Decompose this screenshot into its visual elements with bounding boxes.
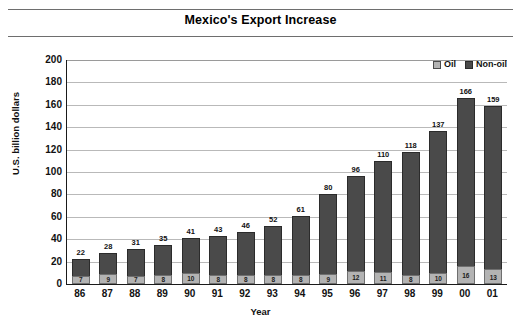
y-tick-label: 40	[34, 234, 62, 244]
bar-group[interactable]: 16616	[457, 60, 475, 284]
bar-group[interactable]: 9612	[347, 60, 365, 284]
x-tick-label: 90	[175, 288, 205, 299]
bar-segment-nonoil[interactable]	[347, 176, 365, 284]
bar-oil-label: 8	[292, 276, 310, 283]
bar-oil-label: 9	[319, 276, 337, 283]
x-tick-label: 89	[147, 288, 177, 299]
y-tick-label: 180	[34, 77, 62, 87]
bar-oil-label: 9	[99, 276, 117, 283]
bar-group[interactable]: 438	[209, 60, 227, 284]
bar-group[interactable]: 317	[127, 60, 145, 284]
y-tick-label: 100	[34, 167, 62, 177]
x-tick-label: 01	[477, 288, 507, 299]
x-tick-label: 92	[230, 288, 260, 299]
legend-label: Oil	[444, 60, 456, 69]
legend-item-oil[interactable]: Oil	[433, 60, 456, 69]
bar-total-label: 96	[340, 166, 372, 174]
bar-total-label: 118	[395, 142, 427, 150]
bar-oil-label: 8	[154, 276, 172, 283]
bar-segment-nonoil[interactable]	[484, 106, 502, 284]
plot-area: 2272893173584110438468528618809961211011…	[66, 60, 507, 285]
x-tick-label: 91	[202, 288, 232, 299]
x-tick-label: 96	[340, 288, 370, 299]
bar-total-label: 80	[312, 184, 344, 192]
bar-total-label: 166	[450, 88, 482, 96]
bar-segment-nonoil[interactable]	[292, 216, 310, 284]
bar-total-label: 61	[285, 206, 317, 214]
bar-oil-label: 10	[429, 275, 447, 282]
bar-group[interactable]: 528	[264, 60, 282, 284]
bar-total-label: 137	[422, 121, 454, 129]
bar-segment-nonoil[interactable]	[402, 152, 420, 284]
x-tick-label: 94	[285, 288, 315, 299]
chart-legend: OilNon-oil	[433, 60, 507, 69]
bar-oil-label: 16	[457, 272, 475, 279]
bar-segment-nonoil[interactable]	[319, 194, 337, 284]
bar-group[interactable]: 227	[72, 60, 90, 284]
bar-segment-nonoil[interactable]	[457, 98, 475, 284]
bar-oil-label: 8	[264, 276, 282, 283]
bar-oil-label: 13	[484, 274, 502, 281]
bar-group[interactable]: 289	[99, 60, 117, 284]
bar-group[interactable]: 358	[154, 60, 172, 284]
bar-oil-label: 11	[374, 275, 392, 282]
title-rule-top	[8, 9, 513, 10]
legend-swatch-icon	[433, 61, 441, 69]
x-tick-label: 93	[257, 288, 287, 299]
x-tick-label: 97	[367, 288, 397, 299]
bar-group[interactable]: 1188	[402, 60, 420, 284]
x-tick-label: 95	[312, 288, 342, 299]
title-rule-bottom	[8, 36, 513, 37]
x-tick-label: 87	[92, 288, 122, 299]
chart-page: Mexico's Export Increase U.S. billion do…	[0, 0, 521, 325]
bar-oil-label: 8	[209, 276, 227, 283]
x-tick-label: 99	[422, 288, 452, 299]
y-tick-label: 60	[34, 212, 62, 222]
x-axis-title: Year	[0, 306, 521, 317]
bar-group[interactable]: 809	[319, 60, 337, 284]
legend-label: Non-oil	[476, 60, 507, 69]
bar-group[interactable]: 468	[237, 60, 255, 284]
bar-oil-label: 12	[347, 274, 365, 281]
legend-swatch-icon	[465, 61, 473, 69]
x-tick-label: 88	[120, 288, 150, 299]
x-tick-label: 98	[395, 288, 425, 299]
y-tick-label: 20	[34, 257, 62, 267]
y-tick-label: 0	[34, 279, 62, 289]
y-tick-label: 80	[34, 189, 62, 199]
bar-segment-nonoil[interactable]	[374, 161, 392, 284]
y-axis-tick-labels: 200180160140120100806040200	[30, 60, 62, 284]
bar-oil-label: 7	[127, 276, 145, 283]
y-tick-label: 140	[34, 122, 62, 132]
x-tick-label: 00	[450, 288, 480, 299]
page-title: Mexico's Export Increase	[0, 13, 521, 27]
legend-item-nonoil[interactable]: Non-oil	[465, 60, 507, 69]
bar-total-label: 52	[257, 216, 289, 224]
bar-total-label: 159	[477, 96, 509, 104]
bar-oil-label: 8	[237, 276, 255, 283]
bar-oil-label: 7	[72, 276, 90, 283]
bar-oil-label: 10	[182, 275, 200, 282]
bar-total-label: 110	[367, 151, 399, 159]
y-tick-label: 160	[34, 100, 62, 110]
y-tick-label: 120	[34, 145, 62, 155]
bar-segment-nonoil[interactable]	[429, 131, 447, 284]
y-axis-title: U.S. billion dollars	[10, 49, 21, 219]
bar-oil-label: 8	[402, 276, 420, 283]
bar-group[interactable]: 618	[292, 60, 310, 284]
y-tick-label: 200	[34, 55, 62, 65]
bar-group[interactable]: 11011	[374, 60, 392, 284]
x-tick-label: 86	[65, 288, 95, 299]
bar-group[interactable]: 13710	[429, 60, 447, 284]
bar-group[interactable]: 4110	[182, 60, 200, 284]
bar-group[interactable]: 15913	[484, 60, 502, 284]
